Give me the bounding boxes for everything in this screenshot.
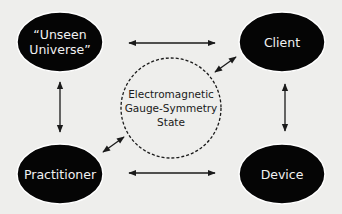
- label-unseen-universe: “Unseen Universe”: [17, 12, 103, 72]
- label-device: Device: [239, 144, 325, 204]
- label-center-state: Electromagnetic Gauge-Symmetry State: [121, 68, 221, 148]
- label-client: Client: [239, 12, 325, 72]
- label-practitioner: Practitioner: [17, 144, 103, 204]
